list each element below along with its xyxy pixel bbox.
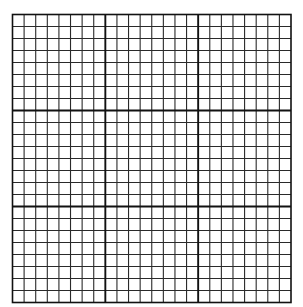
grid-canvas [0, 0, 303, 307]
minor-grid-lines [13, 15, 292, 303]
graph-paper-grid [12, 14, 291, 302]
